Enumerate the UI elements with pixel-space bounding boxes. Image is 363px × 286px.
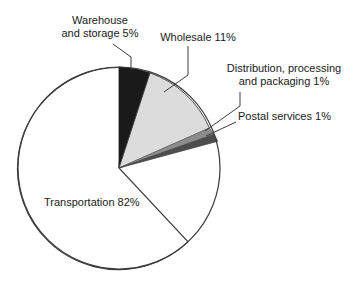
leader-line-warehouse-and-storage — [113, 44, 131, 70]
pie-chart: Warehouse and storage 5% Wholesale 11% D… — [0, 0, 363, 286]
pie-label-distribution-processing-and-packaging-line2: and packaging 1% — [212, 75, 356, 88]
pie-label-postal-services-line1: Postal services 1% — [238, 110, 354, 123]
pie-label-distribution-processing-and-packaging: Distribution, processing and packaging 1… — [212, 62, 356, 88]
pie-label-postal-services: Postal services 1% — [238, 110, 354, 123]
pie-label-transportation: Transportation 82% — [44, 196, 176, 209]
pie-label-wholesale-line1: Wholesale 11% — [150, 31, 246, 44]
pie-label-warehouse-and-storage-line2: and storage 5% — [48, 27, 152, 40]
pie-label-warehouse-and-storage: Warehouse and storage 5% — [48, 14, 152, 40]
pie-label-transportation-line1: Transportation 82% — [44, 196, 176, 209]
pie-label-wholesale: Wholesale 11% — [150, 31, 246, 44]
pie-label-warehouse-and-storage-line1: Warehouse — [48, 14, 152, 27]
pie-label-distribution-processing-and-packaging-line1: Distribution, processing — [212, 62, 356, 75]
